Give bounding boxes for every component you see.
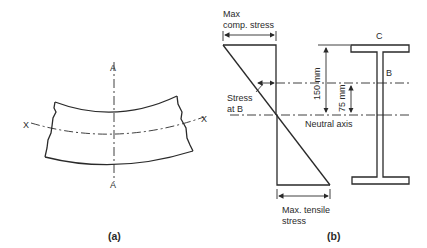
label-a-bottom: A xyxy=(110,180,116,190)
axis-x-line xyxy=(31,117,204,134)
label-stress: Stress xyxy=(227,93,253,103)
label-neutral-axis: Neutral axis xyxy=(305,119,353,129)
label-point-c: C xyxy=(376,31,383,41)
label-a-top: A xyxy=(110,63,116,73)
i-beam-section xyxy=(351,45,409,184)
label-at-b: at B xyxy=(227,104,243,114)
label-x-left: X xyxy=(23,120,29,130)
stress-at-b-leader xyxy=(256,84,263,92)
diagram-canvas: A A X X (a) Max comp. stress Stress at B… xyxy=(0,0,427,248)
label-max-tensile: Max. tensile xyxy=(282,205,330,215)
label-150mm: 150 mm xyxy=(312,67,322,100)
label-75mm: 75 mm xyxy=(337,84,347,112)
label-comp-stress: comp. stress xyxy=(223,20,275,30)
beam-bottom-edge xyxy=(45,151,193,165)
caption-b: (b) xyxy=(327,230,340,242)
caption-a: (a) xyxy=(108,230,121,242)
label-point-b: B xyxy=(386,68,392,78)
figure-a-beam xyxy=(45,96,193,165)
label-x-right: X xyxy=(201,114,207,124)
label-max: Max xyxy=(223,9,241,19)
label-tensile-stress: stress xyxy=(282,216,307,226)
beam-top-edge xyxy=(55,96,177,112)
beam-left-break xyxy=(45,102,56,157)
